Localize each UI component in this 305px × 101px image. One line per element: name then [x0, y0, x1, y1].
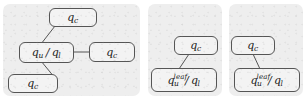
node-p2-bottom[interactable]: qleafu /ql [151, 68, 217, 92]
panel-1: qc qu/ql qc qc [3, 4, 140, 96]
edge-bottom-top [179, 54, 189, 69]
node-p3-bottom[interactable]: qleafu /ql [234, 68, 300, 92]
node-label: qc [106, 47, 117, 58]
diagram-figure: qc qu/ql qc qc qc [0, 0, 305, 101]
node-label: qc [247, 40, 258, 51]
panel-3: qc qleafu /ql [229, 4, 303, 96]
node-p1-center[interactable]: qu/ql [19, 42, 74, 63]
node-label: qleafu /ql [250, 75, 283, 86]
node-label: qc [67, 12, 78, 23]
node-p1-top[interactable]: qc [49, 8, 97, 27]
node-label: qleafu /ql [167, 75, 200, 86]
panel-2: qc qleafu /ql [148, 4, 222, 96]
node-p1-right[interactable]: qc [89, 42, 135, 62]
edge-bottom-top [253, 54, 260, 69]
node-label: qc [190, 40, 201, 51]
node-label: qc [27, 78, 38, 89]
node-p2-top[interactable]: qc [174, 36, 218, 55]
node-p1-bottom[interactable]: qc [8, 74, 58, 93]
node-p3-top[interactable]: qc [231, 36, 275, 55]
node-label: qu/ql [32, 47, 62, 58]
